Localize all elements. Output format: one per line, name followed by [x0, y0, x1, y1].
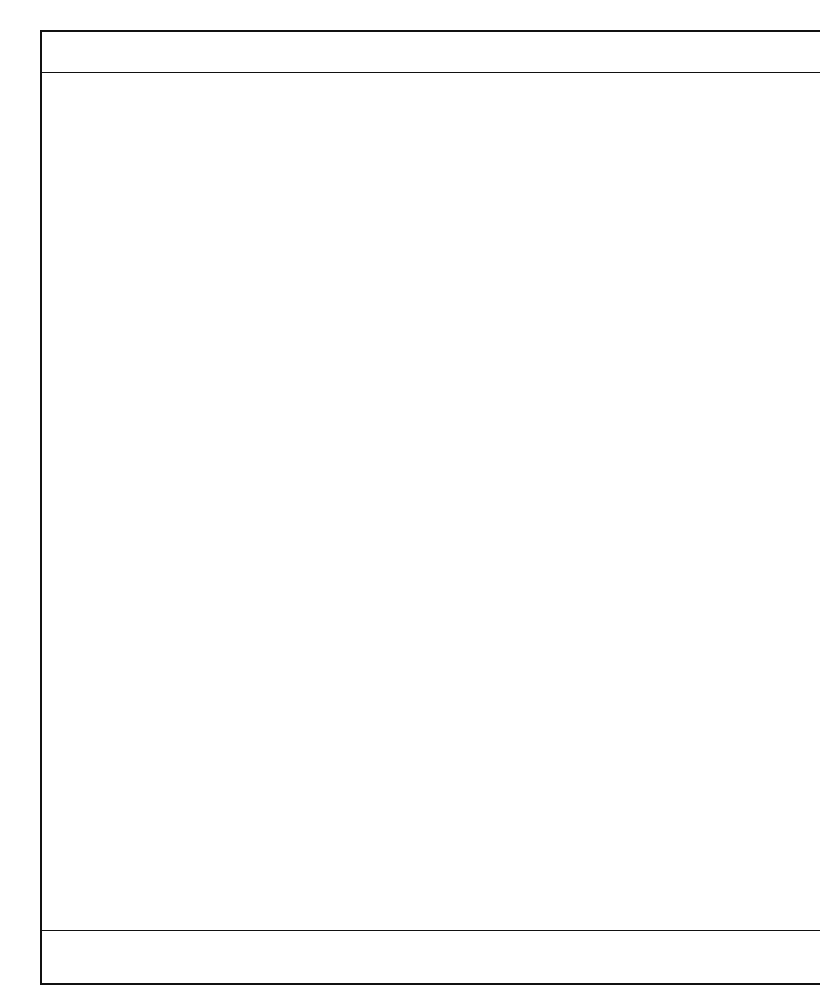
declination-header-bottom: [42, 930, 820, 953]
table-frame-left: [40, 30, 42, 985]
declination-header-top: [42, 32, 820, 73]
table-frame-bottom: [40, 983, 820, 985]
